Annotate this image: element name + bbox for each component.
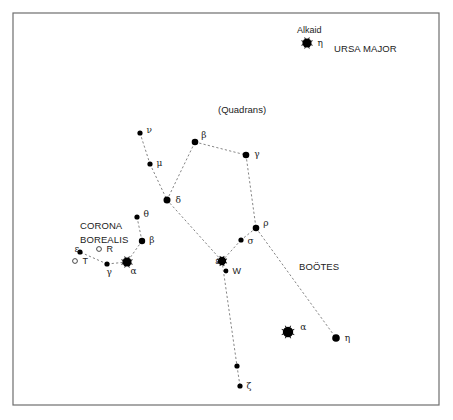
star-boo-nu — [137, 130, 142, 135]
star-label: W — [232, 266, 241, 276]
star-boo-delta — [164, 197, 171, 204]
connection-line — [237, 366, 240, 386]
quadrans-label: (Quadrans) — [218, 104, 266, 115]
connection-line — [256, 228, 336, 338]
star-label: β — [201, 130, 206, 140]
star-label: η — [345, 333, 350, 343]
star-label: ν — [147, 125, 152, 135]
star-chart: ηνμβγδρσεWαηζθβαγε RT Alkaid URSA MAJOR … — [0, 0, 453, 420]
star-label: γ — [107, 267, 112, 277]
star-boo-sigma — [238, 237, 243, 242]
connection-line — [167, 142, 195, 200]
stars: ηνμβγδρσεWαηζθβαγε — [75, 37, 351, 391]
star-boo-rho — [253, 225, 260, 232]
corona-borealis-label-1: CORONA — [80, 220, 123, 231]
star-boo-beta — [192, 139, 199, 146]
connection-line — [167, 200, 222, 261]
connection-line — [137, 217, 142, 241]
star-label: ρ — [263, 218, 268, 228]
constellation-lines — [80, 133, 336, 386]
star-label: μ — [157, 158, 163, 168]
ursa-major-label: URSA MAJOR — [334, 43, 397, 54]
star-label: ε — [75, 244, 80, 254]
variable-star-crb-r — [97, 247, 102, 252]
connection-line — [195, 142, 246, 155]
star-boo-unnamed — [234, 363, 239, 368]
star-boo-eta — [332, 334, 340, 342]
variable-star-crb-t — [73, 259, 78, 264]
alkaid-label: Alkaid — [297, 25, 322, 35]
star-boo-mu — [147, 161, 152, 166]
bootes-label: BOÖTES — [299, 261, 339, 272]
connection-line — [150, 164, 167, 200]
connection-line — [140, 133, 150, 164]
star-label: T — [82, 256, 88, 266]
star-crb-theta — [134, 214, 139, 219]
star-label: θ — [144, 209, 149, 219]
star-label: α — [131, 266, 137, 276]
star-label: δ — [176, 195, 181, 205]
star-alkaid-eta — [302, 38, 311, 47]
star-label: ε — [215, 256, 220, 266]
star-boo-gamma — [243, 152, 250, 159]
chart-frame — [13, 13, 439, 405]
star-label: σ — [248, 236, 254, 246]
star-boo-zeta — [237, 383, 242, 388]
star-label: β — [149, 235, 154, 245]
star-label: R — [106, 244, 113, 254]
star-label: η — [318, 38, 323, 48]
star-label: γ — [254, 149, 259, 159]
star-crb-gamma — [104, 261, 109, 266]
star-boo-w — [224, 269, 229, 274]
connection-line — [222, 261, 237, 366]
star-crb-beta — [139, 238, 145, 244]
connection-line — [246, 155, 256, 228]
star-label: α — [300, 322, 306, 332]
corona-borealis-label-2: BOREALIS — [80, 234, 128, 245]
connection-line — [222, 240, 241, 261]
star-label: ζ — [247, 381, 252, 391]
star-boo-alpha — [283, 327, 293, 337]
